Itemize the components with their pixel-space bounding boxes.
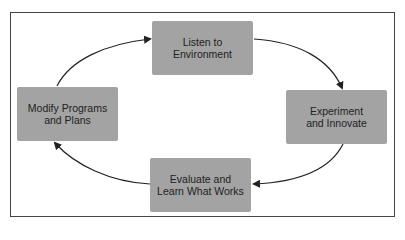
node-modify-programs-and-plans: Modify Programsand Plans xyxy=(17,87,118,141)
node-label-line: and Innovate xyxy=(306,117,367,129)
node-label-line: Learn What Works xyxy=(157,185,244,197)
arrow-modify-to-listen xyxy=(57,39,150,86)
node-evaluate-and-learn: Evaluate andLearn What Works xyxy=(150,158,251,212)
node-label-line: Environment xyxy=(173,48,232,60)
node-label-line: Experiment xyxy=(306,105,367,117)
node-listen-to-environment: Listen toEnvironment xyxy=(152,21,253,75)
node-label-line: Modify Programs xyxy=(28,102,107,114)
arrow-evaluate-to-modify xyxy=(55,143,150,184)
arrow-listen-to-experiment xyxy=(254,39,342,88)
node-label-line: Evaluate and xyxy=(157,173,244,185)
node-experiment-and-innovate: Experimentand Innovate xyxy=(286,90,387,144)
node-label-line: and Plans xyxy=(28,114,107,126)
arrow-experiment-to-evaluate xyxy=(254,144,343,184)
node-label-line: Listen to xyxy=(173,36,232,48)
